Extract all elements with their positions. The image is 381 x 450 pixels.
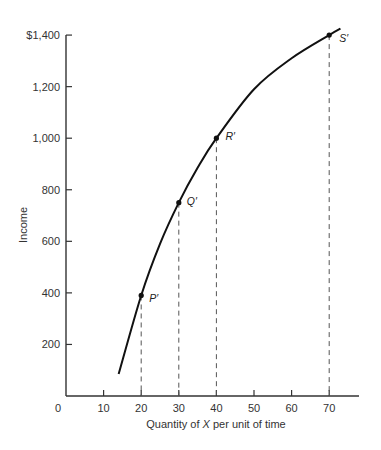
x-tick-label: 40 xyxy=(210,402,222,414)
y-tick-label: $1,400 xyxy=(26,29,60,41)
data-point xyxy=(214,136,219,141)
y-tick-label: 800 xyxy=(42,184,60,196)
x-tick-label: 30 xyxy=(173,402,185,414)
drop-lines xyxy=(141,35,329,396)
y-tick-label: 1,200 xyxy=(32,81,60,93)
y-tick-label: 600 xyxy=(42,235,60,247)
data-points: P′Q′R′S′ xyxy=(139,32,350,304)
data-point xyxy=(139,293,144,298)
y-tick-label: 200 xyxy=(42,338,60,350)
x-tick-label: 50 xyxy=(248,402,260,414)
x-axis-title-post: per unit of time xyxy=(210,418,286,430)
x-tick-label: 20 xyxy=(135,402,147,414)
y-tick-label: 400 xyxy=(42,287,60,299)
income-curve xyxy=(119,29,341,374)
data-point xyxy=(176,200,181,205)
point-label: Q′ xyxy=(187,195,198,207)
x-tick-label: 60 xyxy=(285,402,297,414)
x-axis-title: Quantity of X per unit of time xyxy=(146,418,285,430)
data-point xyxy=(327,32,332,37)
x-origin-label: 0 xyxy=(55,402,61,414)
y-axis-title: Income xyxy=(17,207,29,243)
x-tick-label: 10 xyxy=(97,402,109,414)
x-axis-title-pre: Quantity of xyxy=(146,418,202,430)
x-tick-label: 70 xyxy=(323,402,335,414)
point-label: S′ xyxy=(339,32,349,44)
income-chart: 2004006008001,0001,200$1,400010203040506… xyxy=(0,0,381,450)
y-tick-label: 1,000 xyxy=(32,132,60,144)
point-label: P′ xyxy=(149,292,159,304)
axes: 2004006008001,0001,200$1,400010203040506… xyxy=(26,29,359,414)
point-label: R′ xyxy=(225,130,236,142)
